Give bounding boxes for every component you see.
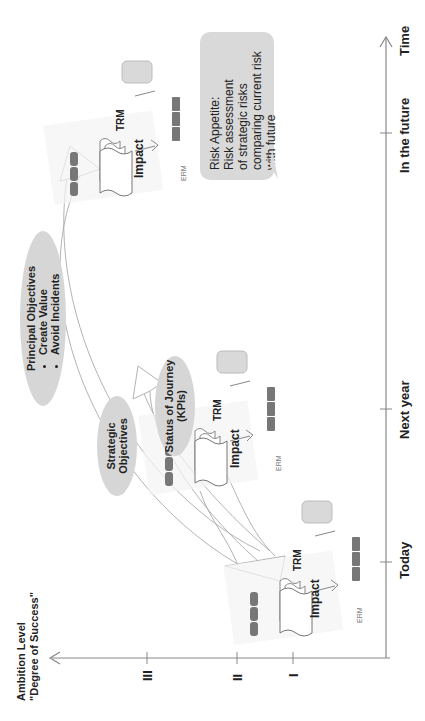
callout-line-4: comparing current risk <box>250 42 264 170</box>
callout-line-2: Risk assessment <box>222 42 236 170</box>
cluster-today-trm: TRM <box>292 549 303 571</box>
cluster-today-impact: Impact <box>308 579 322 618</box>
x-axis-label: Time <box>397 26 412 56</box>
principal-bullet-avoid-incidents: Avoid Incidents <box>49 266 61 355</box>
cluster-next-impact: Impact <box>228 429 242 468</box>
cluster-today-erm: ERM <box>356 607 363 623</box>
y-axis-label: Ambition Level "Degree of Success" <box>15 592 41 701</box>
diagram-canvas: Ambition Level "Degree of Success" III I… <box>0 0 425 721</box>
status-of-journey-ellipse: Status of Journey (KPIs) <box>155 356 195 456</box>
cluster-today <box>223 501 360 645</box>
strategic-objectives-ellipse: Strategic Objectives <box>97 396 137 496</box>
cluster-next-trm: TRM <box>212 399 223 421</box>
y-axis-label-line2: "Degree of Success" <box>28 592 41 701</box>
cluster-future-impact: Impact <box>132 139 146 178</box>
principal-objectives-ellipse: Principal Objectives Create Value Avoid … <box>20 231 66 406</box>
y-tick-I: I <box>286 673 301 677</box>
status-of-journey-line1: Status of Journey <box>163 360 175 453</box>
x-tick-today: Today <box>397 542 412 579</box>
y-tick-II: II <box>230 674 245 681</box>
principal-objectives-title: Principal Objectives <box>25 266 37 371</box>
cluster-future-erm: ERM <box>180 165 187 181</box>
callout-line-1: Risk Appetite: <box>208 42 222 170</box>
risk-appetite-callout: Risk Appetite: Risk assessment of strate… <box>200 32 274 180</box>
strategic-objectives-title: Strategic Objectives <box>105 396 129 496</box>
y-axis-label-line1: Ambition Level <box>15 592 28 701</box>
callout-line-5: with future <box>264 42 278 170</box>
y-tick-III: III <box>140 670 155 681</box>
status-of-journey-line2: (KPIs) <box>175 360 187 453</box>
callout-line-3: of strategic risks <box>236 42 250 170</box>
cluster-future <box>43 61 180 205</box>
x-tick-next-year: Next year <box>397 380 412 439</box>
cluster-next-erm: ERM <box>275 455 282 471</box>
x-tick-future: In the future <box>397 98 412 173</box>
principal-bullet-create-value: Create Value <box>37 266 49 355</box>
cluster-future-trm: TRM <box>115 109 126 131</box>
